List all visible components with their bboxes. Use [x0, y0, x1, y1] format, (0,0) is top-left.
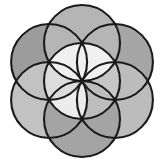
seed-of-life-diagram: Seed of Life [0, 0, 164, 164]
seed-of-life-figure: Seed of Life [0, 0, 164, 164]
